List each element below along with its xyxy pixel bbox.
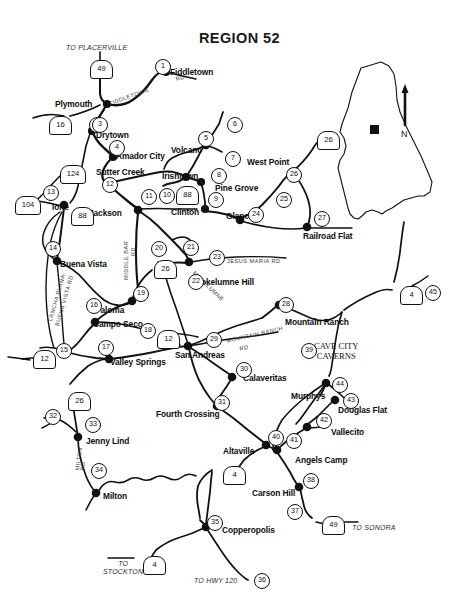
site-number-marker[interactable]: 14 <box>45 241 61 257</box>
direction-note-line: TO <box>103 560 143 568</box>
site-number-marker[interactable]: 16 <box>86 298 102 314</box>
site-number-marker[interactable]: 10 <box>159 188 175 204</box>
direction-note: TO PLACERVILLE <box>66 44 127 52</box>
site-number-marker[interactable]: 21 <box>183 240 199 256</box>
place-label: San Andreas <box>175 351 225 360</box>
page-title: REGION 52 <box>199 30 280 46</box>
site-number-marker[interactable]: 39 <box>301 343 317 359</box>
site-number-marker[interactable]: 19 <box>133 286 149 302</box>
highway-shield[interactable]: 26 <box>154 260 177 279</box>
site-number-marker[interactable]: 28 <box>278 297 294 313</box>
place-label: Angels Camp <box>295 456 347 465</box>
highway-shield[interactable]: 4 <box>143 556 166 575</box>
site-number-marker[interactable]: 7 <box>225 151 241 167</box>
highway-shield[interactable]: 104 <box>15 196 41 215</box>
highway-shield[interactable]: 4 <box>400 286 423 305</box>
site-number-marker[interactable]: 1 <box>155 59 171 75</box>
place-label: Pine Grove <box>215 184 258 193</box>
direction-note: TO HWY 120 <box>194 577 237 585</box>
place-label: Valley Springs <box>110 358 166 367</box>
place-label: Clinton <box>171 208 199 217</box>
site-number-marker[interactable]: 38 <box>303 473 319 489</box>
highway-shield[interactable]: 26 <box>317 131 340 150</box>
highway-shield[interactable]: 26 <box>68 392 91 411</box>
site-number-marker[interactable]: 27 <box>314 211 330 227</box>
site-number-marker[interactable]: 20 <box>151 241 167 257</box>
highway-shield[interactable]: 4 <box>223 466 246 485</box>
site-number-marker[interactable]: 3 <box>92 117 108 133</box>
site-number-marker[interactable]: 43 <box>343 393 359 409</box>
place-label: Altaville <box>223 447 254 456</box>
site-number-marker[interactable]: 24 <box>248 207 264 223</box>
site-number-marker[interactable]: 8 <box>211 168 227 184</box>
highway-shield[interactable]: 124 <box>60 165 86 184</box>
site-number-marker[interactable]: 6 <box>227 117 243 133</box>
place-label: Amador City <box>116 152 165 161</box>
place-label: Buena Vista <box>60 260 107 269</box>
site-number-marker[interactable]: 35 <box>207 515 223 531</box>
place-label: Mountain Ranch <box>285 318 349 327</box>
highway-shield[interactable]: 12 <box>33 350 56 369</box>
place-label: Jenny Lind <box>86 437 129 446</box>
place-label: Carson Hill <box>252 489 295 498</box>
site-number-marker[interactable]: 5 <box>198 131 214 147</box>
direction-note-line: STOCKTON <box>103 568 143 576</box>
place-label: Copperopolis <box>222 526 275 535</box>
site-number-marker[interactable]: 9 <box>208 192 224 208</box>
site-number-marker[interactable]: 33 <box>85 417 101 433</box>
direction-note: TOSTOCKTON <box>103 560 143 576</box>
site-number-marker[interactable]: 45 <box>425 285 441 301</box>
place-label: Volcano <box>171 146 202 155</box>
highway-shield[interactable]: 88 <box>176 186 199 205</box>
place-label: Ione <box>52 203 69 212</box>
site-number-marker[interactable]: 41 <box>286 433 302 449</box>
site-number-marker[interactable]: 40 <box>268 430 284 446</box>
site-number-marker[interactable]: 30 <box>236 362 252 378</box>
site-number-marker[interactable]: 11 <box>141 189 157 205</box>
highway-shield[interactable]: 88 <box>71 207 94 226</box>
site-number-marker[interactable]: 32 <box>45 409 61 425</box>
site-number-marker[interactable]: 4 <box>109 140 125 156</box>
place-label: Railroad Flat <box>303 232 352 241</box>
highway-shield[interactable]: 16 <box>49 116 72 135</box>
highway-shield[interactable]: 49 <box>90 60 113 79</box>
road-name-label: MIDDLE BAR <box>123 241 129 280</box>
place-label: Vallecito <box>331 428 364 437</box>
site-number-marker[interactable]: 13 <box>43 185 59 201</box>
map-graphic <box>0 0 461 614</box>
site-number-marker[interactable]: 34 <box>91 463 107 479</box>
map-root: REGION 52 FiddletownPlymouthDrytownAmado… <box>0 0 461 614</box>
site-number-marker[interactable]: 29 <box>206 332 222 348</box>
highway-shield[interactable]: 12 <box>157 330 180 349</box>
direction-note: TO SONORA <box>352 524 396 532</box>
site-number-marker[interactable]: 12 <box>102 177 118 193</box>
highway-shield[interactable]: 49 <box>322 516 345 535</box>
place-label: Fourth Crossing <box>156 410 220 419</box>
place-label: West Point <box>247 158 289 167</box>
place-label: Murphys <box>291 392 325 401</box>
place-label: Plymouth <box>55 100 92 109</box>
place-label: Campo Seco <box>93 320 143 329</box>
place-label: Sutter Creek <box>96 168 145 177</box>
site-number-marker[interactable]: 18 <box>140 323 156 339</box>
place-label: Irishtown <box>162 172 198 181</box>
place-label: Milton <box>103 492 127 501</box>
poi-label: CAVE CITYCAVERNS <box>314 341 358 361</box>
poi-label-line: CAVERNS <box>314 351 358 361</box>
site-number-marker[interactable]: 37 <box>287 504 303 520</box>
site-number-marker[interactable]: 26 <box>286 167 302 183</box>
site-number-marker[interactable]: 23 <box>209 250 225 266</box>
road-name-label: RD <box>79 461 86 471</box>
site-number-marker[interactable]: 44 <box>332 377 348 393</box>
site-number-marker[interactable]: 25 <box>276 192 292 208</box>
site-number-marker[interactable]: 15 <box>56 343 72 359</box>
road-name-label: RD <box>130 247 136 256</box>
road-name-label: JESUS MARIA RD <box>227 258 281 264</box>
poi-label-line: CAVE CITY <box>314 341 358 351</box>
site-number-marker[interactable]: 31 <box>214 395 230 411</box>
north-arrow-label: N <box>401 129 408 139</box>
site-number-marker[interactable]: 22 <box>188 274 204 290</box>
site-number-marker[interactable]: 17 <box>98 340 114 356</box>
site-number-marker[interactable]: 36 <box>254 573 270 589</box>
site-number-marker[interactable]: 42 <box>316 413 332 429</box>
